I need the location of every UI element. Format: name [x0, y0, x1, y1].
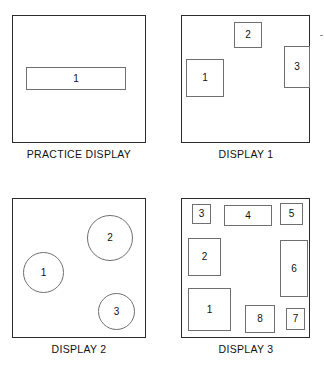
shape-label: 1	[202, 73, 208, 83]
shape-rect-7[interactable]: 7	[286, 308, 305, 330]
shape-label: 1	[207, 305, 213, 315]
shape-label: 6	[291, 264, 297, 274]
shape-rect-1[interactable]: 1	[188, 288, 231, 331]
shape-label: 1	[73, 74, 79, 84]
shape-label: 1	[41, 268, 47, 278]
shape-rect-6[interactable]: 6	[280, 240, 308, 297]
shape-rect-3[interactable]: 3	[284, 46, 310, 88]
shape-label: 3	[199, 209, 205, 219]
figure-canvas: 1PRACTICE DISPLAY123DISPLAY 1123DISPLAY …	[0, 0, 324, 368]
shape-rect-5[interactable]: 5	[280, 203, 303, 225]
panel-caption-practice-display: PRACTICE DISPLAY	[2, 148, 156, 162]
shape-rect-8[interactable]: 8	[245, 305, 275, 333]
shape-label: 7	[293, 314, 299, 324]
panel-display-1: 123	[181, 15, 310, 143]
shape-circle-1[interactable]: 1	[23, 252, 64, 293]
shape-label: 5	[289, 209, 295, 219]
shape-rect-1[interactable]: 1	[186, 59, 224, 97]
shape-label: 8	[257, 314, 263, 324]
panel-practice-display: 1	[12, 15, 146, 143]
panel-caption-display-2: DISPLAY 2	[2, 343, 156, 357]
edge-tick	[320, 35, 323, 36]
panel-display-3: 34526187	[181, 198, 310, 338]
shape-label: 4	[245, 211, 251, 221]
shape-rect-3[interactable]: 3	[192, 204, 211, 224]
panel-caption-display-1: DISPLAY 1	[170, 148, 322, 162]
shape-label: 2	[107, 233, 113, 243]
shape-label: 3	[114, 307, 120, 317]
shape-label: 2	[245, 30, 251, 40]
shape-rect-1[interactable]: 1	[26, 67, 126, 90]
shape-circle-2[interactable]: 2	[87, 215, 133, 261]
shape-circle-3[interactable]: 3	[98, 293, 135, 330]
panel-caption-display-3: DISPLAY 3	[170, 343, 322, 357]
shape-rect-4[interactable]: 4	[224, 205, 272, 226]
shape-rect-2[interactable]: 2	[234, 22, 262, 48]
panel-display-2: 123	[12, 198, 146, 338]
shape-label: 3	[294, 62, 300, 72]
shape-rect-2[interactable]: 2	[188, 238, 221, 276]
shape-label: 2	[202, 252, 208, 262]
